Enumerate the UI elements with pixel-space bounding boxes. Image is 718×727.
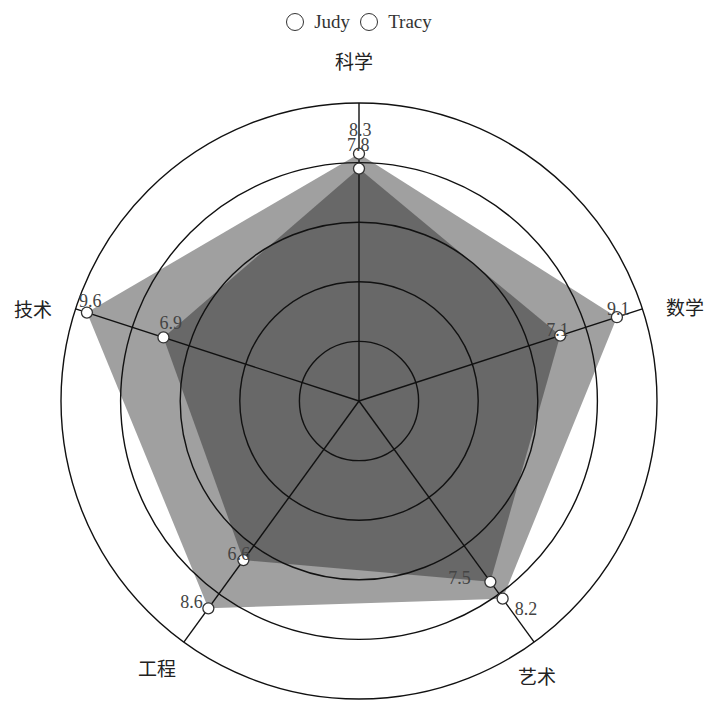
axis-name-label: 数学 [666, 297, 704, 319]
data-point-marker[interactable] [158, 332, 169, 343]
value-label: 6.6 [227, 544, 250, 564]
data-point-marker[interactable] [203, 603, 214, 614]
value-label: 7.5 [448, 568, 471, 588]
value-label: 8.2 [515, 599, 538, 619]
axis-name-label: 艺术 [518, 666, 556, 688]
value-label: 9.6 [79, 291, 102, 311]
value-label: 9.1 [607, 299, 630, 319]
radar-chart: 7.87.17.56.66.98.39.18.28.69.6科学数学艺术工程技术 [0, 0, 718, 727]
axis-name-label: 技术 [14, 299, 52, 321]
value-label: 6.9 [159, 313, 182, 333]
axis-name-label: 科学 [335, 51, 373, 73]
value-label: 8.6 [180, 592, 203, 612]
data-point-marker[interactable] [497, 593, 508, 604]
data-point-marker[interactable] [354, 163, 365, 174]
data-point-marker[interactable] [485, 576, 496, 587]
value-label: 7.1 [546, 320, 569, 340]
value-label: 8.3 [349, 120, 372, 140]
axis-name-label: 工程 [138, 658, 176, 680]
